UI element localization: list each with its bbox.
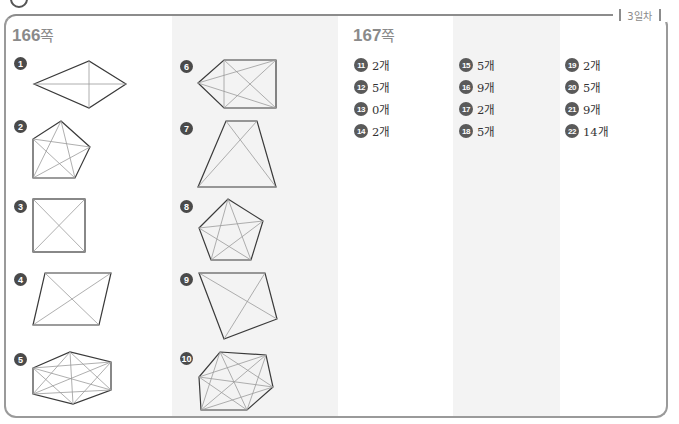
answer-item: 14 2개 <box>354 123 390 139</box>
answer-value: 9개 <box>477 79 495 95</box>
answer-value: 9개 <box>583 101 601 117</box>
answer-item: 21 9개 <box>565 101 601 117</box>
answer-item: 20 5개 <box>565 79 601 95</box>
answer-value: 5개 <box>477 123 495 139</box>
answer-item: 18 5개 <box>459 123 495 139</box>
answer-value: 14개 <box>583 123 609 139</box>
answer-value: 5개 <box>372 79 390 95</box>
answer-number: 16 <box>459 80 473 94</box>
answer-item: 16 9개 <box>459 79 495 95</box>
answer-value: 5개 <box>583 79 601 95</box>
answer-number: 21 <box>565 102 579 116</box>
answer-number: 20 <box>565 80 579 94</box>
answer-item: 13 0개 <box>354 101 390 117</box>
answer-number: 22 <box>565 124 579 138</box>
answer-item: 11 2개 <box>354 57 390 73</box>
answer-item: 17 2개 <box>459 101 495 117</box>
answer-number: 18 <box>459 124 473 138</box>
answer-number: 12 <box>354 80 368 94</box>
answer-item: 15 5개 <box>459 57 495 73</box>
answer-number: 17 <box>459 102 473 116</box>
answer-value: 0개 <box>372 101 390 117</box>
answer-value: 2개 <box>477 101 495 117</box>
answer-item: 12 5개 <box>354 79 390 95</box>
answer-number: 11 <box>354 58 368 72</box>
answer-number: 19 <box>565 58 579 72</box>
answer-number: 15 <box>459 58 473 72</box>
answer-item: 22 14개 <box>565 123 609 139</box>
answer-number: 13 <box>354 102 368 116</box>
answer-value: 5개 <box>477 57 495 73</box>
answer-value: 2개 <box>583 57 601 73</box>
answer-item: 19 2개 <box>565 57 601 73</box>
answer-number: 14 <box>354 124 368 138</box>
answer-value: 2개 <box>372 57 390 73</box>
answer-value: 2개 <box>372 123 390 139</box>
